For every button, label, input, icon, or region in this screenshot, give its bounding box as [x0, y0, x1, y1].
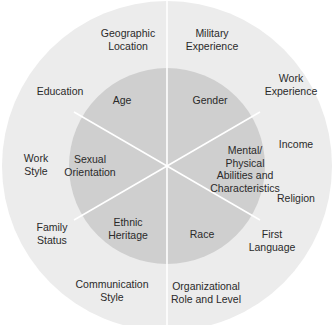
inner-label-gender: Gender: [192, 94, 227, 107]
outer-label-communication-style: Communication Style: [76, 278, 149, 303]
inner-label-age: Age: [113, 94, 132, 107]
outer-label-family-status: Family Status: [37, 221, 68, 246]
outer-label-income: Income: [279, 138, 313, 151]
outer-label-education: Education: [37, 85, 84, 98]
outer-label-geographic-location: Geographic Location: [101, 27, 155, 52]
outer-label-organizational-role: Organizational Role and Level: [171, 280, 241, 305]
inner-label-mental-physical-abilities: Mental/ Physical Abilities and Character…: [210, 144, 279, 194]
outer-label-work-style: Work Style: [24, 152, 48, 177]
inner-label-ethnic-heritage: Ethnic Heritage: [108, 216, 148, 241]
outer-label-military-experience: Military Experience: [186, 27, 239, 52]
outer-label-first-language: First Language: [249, 228, 296, 253]
diversity-wheel: [0, 0, 332, 325]
inner-label-race: Race: [190, 228, 215, 241]
outer-label-religion: Religion: [277, 192, 315, 205]
outer-label-work-experience: Work Experience: [265, 72, 318, 97]
inner-label-sexual-orientation: Sexual Orientation: [64, 153, 115, 178]
